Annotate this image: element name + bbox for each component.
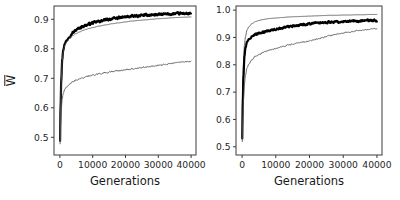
plot-area-right: 0.50.60.70.80.91.0010000200003000040000G… bbox=[200, 0, 400, 200]
x-axis-title: Generations bbox=[90, 174, 160, 188]
chart-panel-right: 0.50.60.70.80.91.0010000200003000040000G… bbox=[200, 0, 400, 200]
data-series-thin-noisy-lower bbox=[60, 61, 191, 144]
x-tick-label: 40000 bbox=[362, 159, 391, 170]
x-tick-label: 30000 bbox=[144, 159, 173, 170]
y-axis-title-glyph: W bbox=[4, 75, 18, 86]
x-tick-label: 10000 bbox=[261, 159, 290, 170]
x-tick-label: 0 bbox=[239, 159, 245, 170]
y-tick-label: 0.8 bbox=[34, 43, 49, 54]
axis-frame bbox=[236, 6, 382, 155]
y-axis-title: W bbox=[4, 75, 18, 86]
plot-area-left: 0.50.60.70.80.9010000200003000040000Gene… bbox=[0, 0, 200, 200]
x-tick-label: 0 bbox=[57, 159, 63, 170]
y-tick-label: 0.6 bbox=[34, 102, 49, 113]
y-tick-label: 0.9 bbox=[34, 14, 49, 25]
y-tick-label: 1.0 bbox=[216, 4, 231, 15]
y-tick-label: 0.5 bbox=[34, 132, 49, 143]
x-tick-label: 10000 bbox=[78, 159, 107, 170]
x-tick-label: 30000 bbox=[329, 159, 358, 170]
x-tick-label: 20000 bbox=[111, 159, 140, 170]
y-tick-label: 0.6 bbox=[216, 114, 231, 125]
y-tick-label: 0.7 bbox=[216, 86, 231, 97]
x-axis-title: Generations bbox=[274, 174, 344, 188]
y-tick-label: 0.9 bbox=[216, 32, 231, 43]
y-tick-label: 0.8 bbox=[216, 59, 231, 70]
data-series-thin-noisy-lower bbox=[242, 28, 377, 141]
data-series-thick-black bbox=[242, 19, 377, 138]
x-tick-label: 20000 bbox=[295, 159, 324, 170]
figure-container: 0.50.60.70.80.9010000200003000040000Gene… bbox=[0, 0, 400, 200]
y-tick-label: 0.5 bbox=[216, 141, 231, 152]
y-tick-label: 0.7 bbox=[34, 73, 49, 84]
chart-panel-left: 0.50.60.70.80.9010000200003000040000Gene… bbox=[0, 0, 200, 200]
data-series-thick-black bbox=[60, 12, 191, 141]
